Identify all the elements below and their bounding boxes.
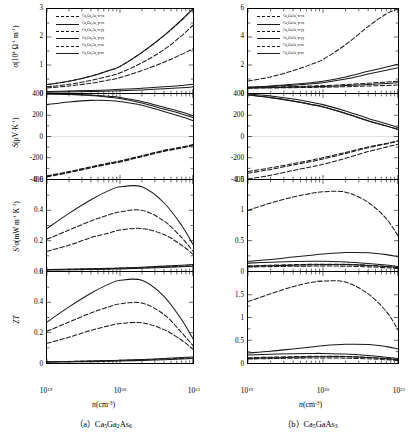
series-a-seebeck-p-xx (47, 94, 193, 116)
legend-label: Ca5GaAs3-n-zz (283, 44, 304, 48)
legend-item-a-5: Ca5Ga2As6-p-zz (56, 50, 104, 57)
legend-item-a-0: Ca5Ga2As6-n-xx (56, 13, 104, 20)
panel-a-plot-stack (46, 8, 194, 364)
legend-item-a-1: Ca5Ga2As6-p-xx (56, 20, 104, 27)
subplot-b-zt-canvas (248, 272, 398, 363)
panel-b: Ca5GaAs3-n-xxCa5GaAs3-p-xxCa5GaAs3-n-yyC… (207, 0, 414, 437)
legend-label: Ca5Ga2As6-p-xx (82, 22, 104, 26)
ytick-label: 0.4 (15, 298, 43, 306)
ytick-label: 0 (216, 133, 244, 141)
ytick-label: 0.2 (15, 329, 43, 337)
xtick-a-1e19: 1019 (28, 386, 64, 395)
legend-label: Ca5Ga2As6-p-yy (82, 37, 104, 41)
legend-label: Ca5GaAs3-p-yy (283, 37, 304, 41)
legend-item-a-3: Ca5Ga2As6-p-yy (56, 35, 104, 42)
caption-a: （a）Ca5Ga2As6 (0, 417, 207, 429)
ytick-label: 1 (216, 206, 244, 214)
ytick-label: 0.6 (15, 176, 43, 184)
ytick-label: 1 (15, 61, 43, 69)
ytick-label: 400 (15, 90, 43, 98)
legend-label: Ca5Ga2As6-p-zz (82, 52, 104, 56)
ytick-label: 0 (216, 360, 244, 368)
legend-label: Ca5GaAs3-n-yy (283, 29, 304, 33)
axis-label-powerfactor-a: S2σ(mW m-1 K-2) (12, 185, 21, 269)
series-a-zt-n-yy (47, 322, 193, 349)
ytick-label: 1.5 (216, 176, 244, 184)
axis-label-x-a: n(cm-3) (0, 400, 207, 409)
legend-label: Ca5Ga2As6-n-xx (82, 15, 104, 19)
series-b-zt-p-xx (248, 344, 398, 353)
ytick-label: 0.4 (15, 206, 43, 214)
legend-item-b-1: Ca5GaAs3-p-xx (257, 20, 304, 27)
panel-a: Ca5Ga2As6-n-xxCa5Ga2As6-p-xxCa5Ga2As6-n-… (0, 0, 207, 437)
subplot-a-seebeck-canvas (47, 94, 193, 179)
subplot-a-seebeck (46, 94, 194, 180)
subplot-a-zt-canvas (47, 272, 193, 363)
series-a-seebeck-p-zz (47, 100, 193, 120)
series-b-powerfactor-p-xx (248, 252, 398, 261)
legend-item-b-5: Ca5GaAs3-p-zz (257, 50, 304, 57)
ytick-label: 3 (15, 4, 43, 12)
caption-b: （b）Ca5GaAs3 (207, 417, 414, 429)
ytick-label: 200 (15, 111, 43, 119)
ytick-label: 2 (15, 32, 43, 40)
ytick-label: -200 (15, 154, 43, 162)
xtick-b-1e21: 1021 (381, 386, 414, 395)
ytick-label: 1 (216, 314, 244, 322)
xtick-a-1e20: 1020 (102, 386, 138, 395)
ytick-label: 0.2 (15, 237, 43, 245)
ytick-label: 0 (216, 268, 244, 276)
legend-item-a-2: Ca5Ga2As6-n-yy (56, 28, 104, 35)
ytick-label: 200 (216, 111, 244, 119)
axis-label-x-b: n(cm-3) (207, 400, 414, 409)
legend-item-b-4: Ca5GaAs3-n-zz (257, 43, 304, 50)
ytick-label: 2 (216, 61, 244, 69)
legend-label: Ca5GaAs3-p-xx (283, 22, 304, 26)
legend-label: Ca5GaAs3-p-zz (283, 52, 304, 56)
ytick-label: -200 (216, 154, 244, 162)
thermoelectric-figure: Ca5Ga2As6-n-xxCa5Ga2As6-p-xxCa5Ga2As6-n-… (0, 0, 414, 437)
series-b-seebeck-p-zz (248, 95, 398, 129)
ytick-label: 0.6 (15, 268, 43, 276)
legend-panel-b: Ca5GaAs3-n-xxCa5GaAs3-p-xxCa5GaAs3-n-yyC… (257, 13, 304, 57)
ytick-label: 0.5 (216, 337, 244, 345)
ytick-label: 4 (216, 32, 244, 40)
subplot-a-powerfactor (46, 180, 194, 272)
series-a-powerfactor-n-yy (47, 228, 193, 254)
ytick-label: 400 (216, 90, 244, 98)
legend-item-b-0: Ca5GaAs3-n-xx (257, 13, 304, 20)
legend-item-b-2: Ca5GaAs3-n-yy (257, 28, 304, 35)
ytick-label: 6 (216, 4, 244, 12)
ytick-label: 0.5 (216, 237, 244, 245)
ytick-label: 1.5 (216, 291, 244, 299)
subplot-b-powerfactor-canvas (248, 180, 398, 271)
subplot-b-zt (247, 272, 399, 364)
legend-item-a-4: Ca5Ga2As6-n-zz (56, 43, 104, 50)
series-a-powerfactor-p-zz (47, 185, 193, 244)
axis-label-sigma-a: σ(104 Ω-1 m-1) (11, 7, 20, 87)
series-b-seebeck-p-yy (248, 95, 398, 129)
series-b-seebeck-n-zz (248, 144, 398, 179)
ytick-label: 0 (15, 360, 43, 368)
series-b-seebeck-n-yy (248, 141, 398, 172)
ytick-label: 0 (15, 133, 43, 141)
subplot-b-powerfactor (247, 180, 399, 272)
legend-item-b-3: Ca5GaAs3-p-yy (257, 35, 304, 42)
legend-label: Ca5Ga2As6-n-yy (82, 29, 104, 33)
xtick-b-1e19: 1019 (229, 386, 265, 395)
legend-label: Ca5GaAs3-n-xx (283, 15, 304, 19)
series-a-zt-p-zz (47, 279, 193, 339)
series-b-powerfactor-n-xx (248, 191, 398, 236)
subplot-b-seebeck-canvas (248, 94, 398, 179)
legend-label: Ca5Ga2As6-n-zz (82, 44, 104, 48)
legend-panel-a: Ca5Ga2As6-n-xxCa5Ga2As6-p-xxCa5Ga2As6-n-… (56, 13, 104, 57)
series-b-zt-n-xx (248, 281, 398, 330)
subplot-b-seebeck (247, 94, 399, 180)
xtick-b-1e20: 1020 (305, 386, 341, 395)
panel-b-plot-stack (247, 8, 399, 364)
subplot-a-zt (46, 272, 194, 364)
subplot-a-powerfactor-canvas (47, 180, 193, 271)
